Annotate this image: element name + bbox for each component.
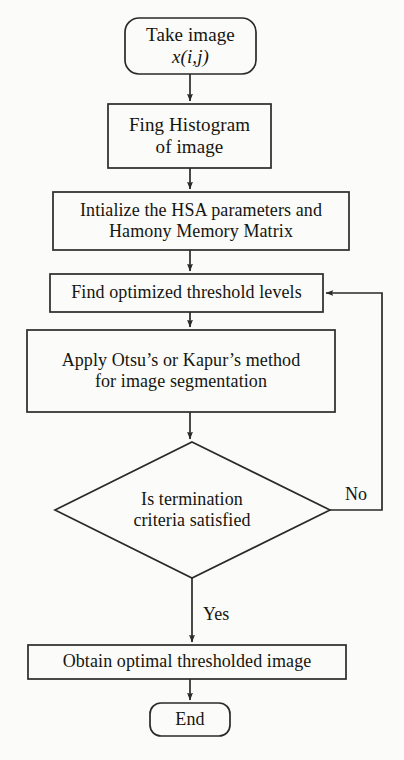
flowchart-figure: Take image x(i,j) Fing Histogram of imag… <box>0 0 404 760</box>
node-initialize-line1: Intialize the HSA parameters and <box>80 200 322 221</box>
node-decision-line1: Is termination <box>141 489 243 510</box>
node-apply-method-line2: for image segmentation <box>95 371 267 392</box>
node-decision-line2: criteria satisfied <box>133 510 250 531</box>
node-end: End <box>150 703 230 736</box>
node-start: Take image x(i,j) <box>125 18 256 74</box>
node-start-line2: x(i,j) <box>172 46 209 68</box>
node-start-line1: Take image <box>146 24 235 46</box>
node-end-line1: End <box>175 709 204 730</box>
node-decision: Is termination criteria satisfied <box>92 480 292 540</box>
node-histogram-line2: of image <box>156 136 224 158</box>
edge-label-yes: Yes <box>203 604 229 625</box>
node-apply-method: Apply Otsu’s or Kapur’s method for image… <box>27 330 335 412</box>
node-obtain-line1: Obtain optimal thresholded image <box>63 651 312 672</box>
node-initialize: Intialize the HSA parameters and Hamony … <box>53 192 349 250</box>
node-histogram: Fing Histogram of image <box>108 104 271 168</box>
node-apply-method-line1: Apply Otsu’s or Kapur’s method <box>62 350 301 371</box>
node-initialize-line2: Hamony Memory Matrix <box>109 221 293 242</box>
node-find-threshold-line1: Find optimized threshold levels <box>71 282 302 303</box>
node-obtain: Obtain optimal thresholded image <box>28 645 346 679</box>
node-histogram-line1: Fing Histogram <box>129 114 250 136</box>
edge-label-no: No <box>345 484 367 505</box>
node-find-threshold: Find optimized threshold levels <box>50 274 323 312</box>
